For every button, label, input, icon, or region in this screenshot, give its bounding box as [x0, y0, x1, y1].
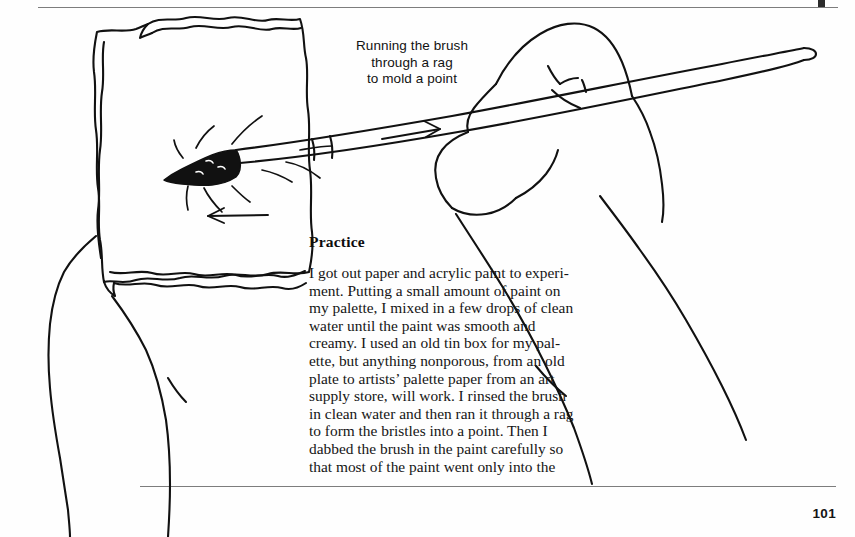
body-line: supply store, will work. I rinsed the br…: [309, 387, 587, 405]
page-rule-bottom: [140, 486, 836, 487]
rag-fold-lines: [174, 116, 332, 212]
page-number: 101: [0, 506, 836, 521]
registration-mark: [818, 0, 825, 7]
arrow-right-on-handle: [382, 121, 440, 139]
body-line: ette, but anything nonporous, from an ol…: [309, 352, 587, 370]
body-line: dabbed the brush in the paint carefully …: [309, 440, 587, 458]
arrow-left-below-brush: [208, 208, 268, 223]
body-line: that most of the paint went only into th…: [309, 458, 587, 476]
body-line: in clean water and then ran it through a…: [309, 405, 587, 423]
paintbrush: [236, 48, 816, 163]
caption-line-1: Running the brush: [326, 38, 498, 55]
body-line: I got out paper and acrylic paint to exp…: [309, 264, 587, 282]
rag-cloth: [93, 17, 312, 296]
book-page: Running the brush through a rag to mold …: [0, 0, 855, 537]
left-hand-holding-rag: [49, 236, 187, 537]
page-rule-top: [38, 7, 838, 8]
caption-line-3: to mold a point: [326, 71, 498, 88]
body-line: water until the paint was smooth and: [309, 317, 587, 335]
body-line: to form the bristles into a point. Then …: [309, 422, 587, 440]
brush-tip-loaded-with-paint: [164, 150, 240, 185]
section-heading: Practice: [309, 233, 587, 251]
caption-line-2: through a rag: [326, 55, 498, 72]
body-line: plate to artists’ palette paper from an …: [309, 370, 587, 388]
body-line: my palette, I mixed in a few drops of cl…: [309, 299, 587, 317]
body-line: creamy. I used an old tin box for my pal…: [309, 334, 587, 352]
body-line: ment. Putting a small amount of paint on: [309, 282, 587, 300]
body-text-column: Practice I got out paper and acrylic pai…: [309, 233, 587, 475]
body-paragraph: I got out paper and acrylic paint to exp…: [309, 264, 587, 475]
illustration-caption: Running the brush through a rag to mold …: [326, 38, 498, 88]
